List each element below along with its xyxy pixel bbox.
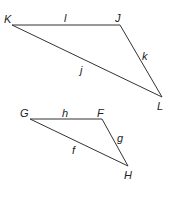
- side-label-l: l: [64, 12, 67, 24]
- diagram-canvas: K J L l k j G F H h g f: [0, 0, 175, 204]
- vertex-label-h: H: [124, 169, 132, 181]
- vertex-label-f: F: [97, 107, 105, 119]
- side-f: [30, 119, 128, 166]
- vertex-label-l: L: [157, 100, 163, 112]
- side-label-k: k: [142, 50, 148, 62]
- side-k: [120, 25, 162, 97]
- triangle-fgh: G F H h g f: [20, 107, 132, 181]
- side-label-f: f: [72, 144, 76, 156]
- vertex-label-g: G: [20, 107, 29, 119]
- triangle-jkl: K J L l k j: [4, 12, 163, 112]
- vertex-label-j: J: [114, 12, 121, 24]
- side-label-j: j: [78, 64, 83, 76]
- vertex-label-k: K: [4, 13, 12, 25]
- side-j: [12, 25, 162, 97]
- side-label-h: h: [62, 107, 68, 119]
- side-label-g: g: [117, 132, 124, 144]
- side-g: [102, 119, 128, 166]
